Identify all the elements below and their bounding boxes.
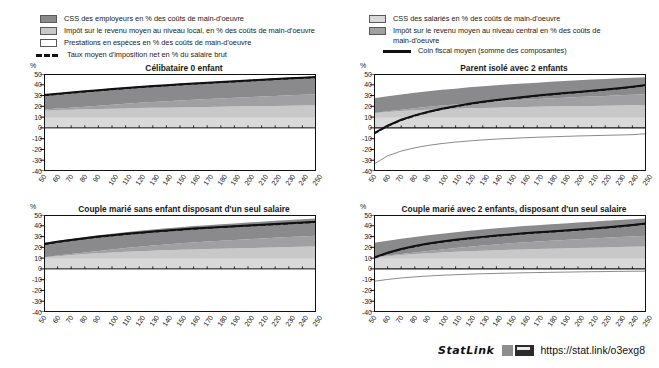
chart-panel-married-couple-no-children: % Couple marié sans enfant disposant d'u…: [0, 203, 329, 351]
x-axis-tick-label: 90: [422, 173, 432, 183]
x-axis-tick-label: 210: [257, 173, 269, 187]
x-axis-tick-label: 240: [627, 173, 639, 187]
x-axis-labels: 5060708090100110120130140150160170180190…: [44, 173, 316, 203]
chart-panel-single-no-children: % Célibataire 0 enfant 50403020100-10-20…: [0, 62, 329, 210]
x-axis-tick-label: 200: [243, 314, 255, 328]
legend-item-local-income-tax: Impôt sur le revenu moyen au niveau loca…: [40, 26, 340, 37]
x-axis-tick-label: 220: [600, 173, 612, 187]
x-axis-tick-label: 190: [229, 314, 241, 328]
x-axis-tick-label: 80: [78, 173, 88, 183]
x-axis-tick-label: 170: [202, 173, 214, 187]
x-axis-tick-label: 250: [641, 173, 653, 187]
x-axis-tick-label: 150: [175, 173, 187, 187]
y-axis-unit: %: [30, 62, 36, 70]
x-axis-tick-label: 160: [519, 173, 531, 187]
x-axis-tick-label: 170: [202, 314, 214, 328]
x-axis-tick-label: 240: [627, 314, 639, 328]
x-axis-tick-label: 200: [243, 173, 255, 187]
legend-label: Taux moyen d'imposition net en % du sala…: [67, 50, 227, 60]
x-axis-tick-label: 60: [381, 173, 391, 183]
x-axis-tick-label: 90: [92, 173, 102, 183]
x-axis-tick-label: 130: [478, 173, 490, 187]
x-axis-tick-label: 140: [491, 173, 503, 187]
x-axis-tick-label: 250: [311, 173, 323, 187]
y-axis-labels: 50403020100-10-20-30-40: [22, 215, 42, 312]
x-axis-tick-label: 160: [519, 314, 531, 328]
legend-label: CSS des employeurs en % des coûts de mai…: [64, 14, 244, 24]
legend-label: CSS des salariés en % des coûts de main-…: [393, 14, 560, 24]
statlink-footer: StatLink https://stat.link/o3exg8: [0, 340, 659, 360]
panel-title: Couple marié sans enfant disposant d'un …: [44, 204, 324, 214]
chart-panel-married-couple-two-children: % Couple marié avec 2 enfants, disposant…: [330, 203, 659, 351]
x-axis-tick-label: 240: [297, 173, 309, 187]
y-axis-unit: %: [360, 203, 366, 211]
x-axis-tick-label: 80: [408, 314, 418, 324]
x-axis-tick-label: 90: [92, 314, 102, 324]
statlink-url[interactable]: https://stat.link/o3exg8: [541, 344, 645, 356]
plot-area: [374, 215, 646, 312]
plot-area: [44, 215, 316, 312]
x-axis-labels: 5060708090100110120130140150160170180190…: [374, 173, 646, 203]
legend-label: Coin fiscal moyen (somme des composantes…: [418, 46, 567, 56]
x-axis-tick-label: 50: [37, 314, 47, 324]
x-axis-tick-label: 60: [381, 314, 391, 324]
swatch-dark-grey-icon: [40, 15, 57, 23]
legend-item-cash-benefits: Prestations en espèces en % des coûts de…: [40, 38, 340, 49]
y-axis-ticks: [40, 215, 45, 312]
x-axis-tick-label: 160: [189, 314, 201, 328]
x-axis-tick-label: 220: [270, 173, 282, 187]
swatch-light-grey-icon: [40, 27, 57, 35]
x-axis-tick-label: 100: [437, 173, 449, 187]
x-axis-tick-label: 70: [395, 314, 405, 324]
x-axis-tick-label: 150: [505, 314, 517, 328]
x-axis-tick-label: 220: [600, 314, 612, 328]
plot-svg: [44, 74, 316, 171]
x-axis-tick-label: 120: [464, 173, 476, 187]
x-axis-tick-label: 80: [408, 173, 418, 183]
x-axis-tick-label: 120: [134, 173, 146, 187]
y-axis-ticks: [370, 215, 375, 312]
x-axis-tick-label: 170: [532, 173, 544, 187]
x-axis-tick-label: 210: [587, 173, 599, 187]
x-axis-tick-label: 140: [161, 314, 173, 328]
x-axis-tick-label: 50: [37, 173, 47, 183]
plot-area: [44, 74, 316, 171]
x-axis-tick-label: 230: [614, 314, 626, 328]
panel-title: Parent isolé avec 2 enfants: [374, 63, 654, 73]
y-axis-unit: %: [30, 203, 36, 211]
chart-panel-single-parent-two-children: % Parent isolé avec 2 enfants 5040302010…: [330, 62, 659, 210]
x-axis-tick-label: 110: [450, 173, 462, 186]
legend-label: Impôt sur le revenu moyen au niveau loca…: [64, 26, 315, 36]
legend-item-net-average-tax-rate: Taux moyen d'imposition net en % du sala…: [40, 50, 340, 61]
legend-item-employer-ssc: CSS des employeurs en % des coûts de mai…: [40, 14, 340, 25]
x-axis-tick-label: 230: [614, 173, 626, 187]
panel-title: Couple marié avec 2 enfants, disposant d…: [374, 204, 654, 214]
x-axis-tick-label: 220: [270, 314, 282, 328]
y-axis-ticks: [370, 74, 375, 171]
x-axis-tick-label: 190: [559, 314, 571, 328]
x-axis-tick-label: 150: [505, 173, 517, 187]
y-axis-labels: 50403020100-10-20-30-40: [352, 74, 372, 171]
x-axis-tick-label: 110: [120, 314, 132, 327]
x-axis-tick-label: 210: [587, 314, 599, 328]
x-axis-tick-label: 230: [284, 173, 296, 187]
x-axis-tick-label: 180: [546, 314, 558, 328]
statlink-label: StatLink: [438, 344, 495, 357]
x-axis-tick-label: 90: [422, 314, 432, 324]
swatch-mid-grey-icon: [369, 27, 386, 35]
x-axis-tick-label: 160: [189, 173, 201, 187]
x-axis-tick-label: 180: [216, 314, 228, 328]
x-axis-tick-label: 120: [464, 314, 476, 328]
x-axis-tick-label: 200: [573, 173, 585, 187]
y-axis-ticks: [40, 74, 45, 171]
x-axis-tick-label: 170: [532, 314, 544, 328]
x-axis-tick-label: 100: [437, 314, 449, 328]
x-axis-tick-label: 240: [297, 314, 309, 328]
x-axis-tick-label: 140: [491, 314, 503, 328]
x-axis-tick-label: 180: [546, 173, 558, 187]
legend-item-employee-ssc: CSS des salariés en % des coûts de main-…: [369, 14, 659, 25]
x-axis-tick-label: 60: [51, 314, 61, 324]
plot-svg: [374, 74, 646, 171]
x-axis-tick-label: 200: [573, 314, 585, 328]
x-axis-tick-label: 100: [107, 314, 119, 328]
